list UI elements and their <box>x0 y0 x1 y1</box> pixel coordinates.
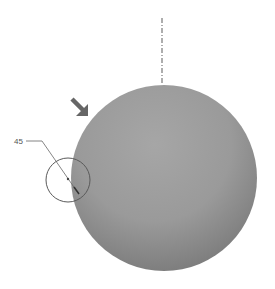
arrow-icon <box>72 99 88 116</box>
annotation-label: 45 <box>14 137 23 146</box>
sphere <box>71 85 257 271</box>
leader-point <box>67 178 69 180</box>
diagram-canvas: 45 <box>0 0 275 289</box>
leader-line <box>26 141 78 193</box>
